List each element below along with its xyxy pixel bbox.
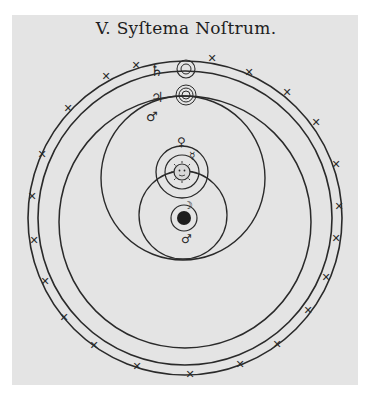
mars-symbol-upper: ♂ (146, 109, 158, 124)
mars-symbol-lower: ♂ (181, 232, 192, 246)
star-icon: ✕ (132, 360, 141, 373)
star-icon: ✕ (131, 59, 140, 72)
moon-symbol: ☽ (183, 199, 193, 212)
saturn-symbol: ♄ (150, 62, 163, 80)
star-icon: ✕ (244, 66, 253, 79)
star-icon: ✕ (207, 52, 216, 65)
star-icon: ✕ (40, 275, 49, 288)
star-icon: ✕ (272, 338, 281, 351)
star-icon: ✕ (331, 158, 340, 171)
star-icon: ✕ (235, 358, 244, 371)
jupiter-satellite-ring (182, 91, 190, 99)
star-icon: ✕ (29, 234, 38, 247)
star-icon: ✕ (282, 86, 291, 99)
star-icon: ✕ (101, 70, 110, 83)
jupiter-satellite-ring (179, 88, 193, 102)
saturn-satellite-ring (181, 64, 191, 74)
star-icon: ✕ (331, 232, 340, 245)
star-icon: ✕ (303, 304, 312, 317)
star-icon: ✕ (311, 116, 320, 129)
saturn-satellite-ring (177, 60, 195, 78)
star-icon: ✕ (59, 311, 68, 324)
mercury-symbol: ☿ (189, 150, 195, 161)
star-icon: ✕ (37, 148, 46, 161)
star-icon: ✕ (321, 271, 330, 284)
jupiter-symbol: ♃ (151, 89, 164, 105)
star-icon: ✕ (63, 102, 72, 115)
star-icon: ✕ (185, 368, 194, 381)
sun-icon (171, 161, 193, 183)
star-icon: ✕ (89, 339, 98, 352)
cosmology-diagram: ♄ ♃ ♂ ♀ ☿ ☽ ♂ ✕ ✕ ✕ ✕ ✕ ✕ ✕ ✕ ✕ ✕ ✕ ✕ ✕ … (0, 0, 372, 400)
venus-symbol: ♀ (177, 135, 186, 149)
star-icon: ✕ (27, 190, 36, 203)
earth-icon (177, 211, 191, 225)
star-icon: ✕ (334, 200, 343, 213)
